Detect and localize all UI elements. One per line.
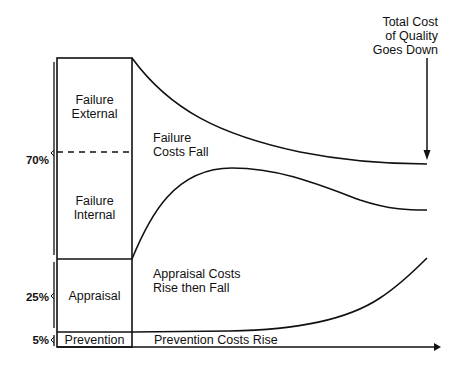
segment-label-line: Appraisal <box>57 289 132 303</box>
segment-label-line: External <box>57 107 132 121</box>
percent-25: 25% <box>14 290 49 304</box>
failure-costs-fall-label: Failure Costs Fall <box>153 131 209 159</box>
segment-label-line: Prevention <box>57 333 132 347</box>
appraisal-costs-label: Appraisal Costs Rise then Fall <box>153 267 241 295</box>
segment-label-line: Failure <box>57 194 132 208</box>
annotation-line-2: of Quality <box>338 29 438 43</box>
failure-appraisal-curve <box>132 168 427 259</box>
segment-failure-external: Failure External <box>57 93 132 121</box>
region-label-line: Appraisal Costs <box>153 267 241 281</box>
region-label-line: Costs Fall <box>153 145 209 159</box>
annotation-line-1: Total Cost <box>338 15 438 29</box>
prevention-costs-rise-label: Prevention Costs Rise <box>154 333 278 347</box>
region-label-line: Rise then Fall <box>153 281 241 295</box>
percent-70: 70% <box>14 153 49 167</box>
region-label-line: Failure <box>153 131 209 145</box>
segment-failure-internal: Failure Internal <box>57 194 132 222</box>
total-cost-annotation: Total Cost of Quality Goes Down <box>338 15 438 57</box>
segment-label-line: Internal <box>57 208 132 222</box>
segment-prevention: Prevention <box>57 333 132 347</box>
percent-5: 5% <box>14 333 49 347</box>
segment-appraisal: Appraisal <box>57 289 132 303</box>
annotation-line-3: Goes Down <box>338 43 438 57</box>
segment-label-line: Failure <box>57 93 132 107</box>
down-arrow-head <box>424 150 431 160</box>
x-axis-arrowhead <box>434 343 441 351</box>
